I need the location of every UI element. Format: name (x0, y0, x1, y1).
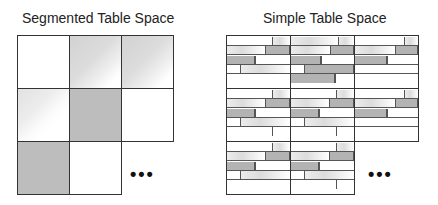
record-bar (240, 118, 290, 126)
record-bar (227, 74, 290, 83)
record-bar (265, 99, 290, 107)
record-bar (321, 56, 354, 64)
record-row (291, 37, 354, 46)
record-row (227, 143, 290, 152)
record-bar (255, 109, 290, 117)
record-bar (404, 37, 418, 45)
record-row (355, 65, 418, 74)
record-row (227, 37, 290, 46)
record-row (355, 99, 418, 108)
record-bar (255, 162, 290, 170)
record-row (291, 99, 354, 108)
record-row (227, 109, 290, 118)
record-bar (355, 37, 404, 45)
record-row (355, 127, 418, 136)
page-cell (290, 88, 355, 142)
record-bar (319, 109, 354, 117)
record-bar (291, 127, 336, 136)
record-bar (336, 180, 354, 189)
record-bar (255, 56, 290, 64)
record-bar (304, 118, 354, 126)
record-bar (387, 56, 419, 64)
record-bar (265, 152, 290, 160)
record-bar (291, 152, 329, 160)
segmented-table-space-title: Segmented Table Space (22, 10, 174, 26)
record-row (355, 74, 418, 83)
record-bar (338, 37, 354, 45)
record-row (291, 171, 354, 180)
record-row (227, 90, 290, 99)
record-row (355, 118, 418, 127)
record-bar (395, 99, 418, 107)
record-bar (387, 109, 419, 117)
record-bar (227, 127, 272, 136)
segment-cell (17, 141, 70, 195)
record-row (227, 171, 290, 180)
record-row (291, 74, 354, 83)
record-row (355, 56, 418, 65)
record-row (227, 162, 290, 171)
record-bar (227, 99, 265, 107)
record-bar (336, 127, 354, 136)
record-row (227, 46, 290, 55)
record-bar (291, 90, 336, 98)
record-bar (336, 143, 354, 151)
record-bar (291, 65, 304, 73)
record-row (355, 46, 418, 55)
record-bar (227, 46, 265, 54)
record-bar (395, 46, 418, 54)
record-bar (227, 65, 240, 73)
record-bar (227, 56, 255, 64)
record-bar (265, 46, 290, 54)
record-bar (336, 90, 354, 98)
record-row (227, 99, 290, 108)
page-cell (226, 35, 291, 89)
record-row (227, 65, 290, 74)
segment-cell (17, 35, 70, 89)
record-bar (291, 180, 336, 189)
record-row (291, 118, 354, 127)
record-bar (291, 37, 338, 45)
record-bar (291, 118, 304, 126)
record-row (227, 180, 290, 189)
record-row (227, 74, 290, 83)
record-bar (355, 118, 418, 126)
page-cell (354, 35, 419, 89)
page-cell (290, 141, 355, 195)
segment-cell (121, 88, 174, 142)
page-cell (290, 35, 355, 89)
segment-cell (121, 35, 174, 89)
simple-ellipsis: ••• (368, 164, 393, 185)
record-bar (291, 143, 336, 151)
record-bar (329, 152, 354, 160)
record-bar (240, 65, 290, 73)
record-row (291, 143, 354, 152)
record-bar (355, 65, 418, 73)
record-row (355, 109, 418, 118)
record-bar (272, 127, 290, 136)
record-bar (227, 152, 265, 160)
record-bar (291, 171, 304, 179)
record-bar (227, 162, 255, 170)
segment-cell (69, 141, 122, 195)
record-bar (355, 127, 418, 136)
record-bar (227, 37, 272, 45)
record-row (291, 152, 354, 161)
record-row (291, 127, 354, 136)
segment-cell (69, 88, 122, 142)
record-bar (272, 90, 290, 98)
record-bar (355, 56, 387, 64)
segmented-ellipsis: ••• (130, 164, 155, 185)
page-cell (354, 88, 419, 142)
record-bar (319, 162, 354, 170)
record-row (291, 162, 354, 171)
record-bar (227, 180, 290, 189)
record-bar (355, 74, 418, 83)
simple-table-space-title: Simple Table Space (263, 10, 386, 26)
page-cell (226, 88, 291, 142)
record-bar (329, 99, 354, 107)
record-row (291, 65, 354, 74)
record-row (291, 180, 354, 189)
record-bar (355, 109, 387, 117)
record-bar (227, 109, 255, 117)
